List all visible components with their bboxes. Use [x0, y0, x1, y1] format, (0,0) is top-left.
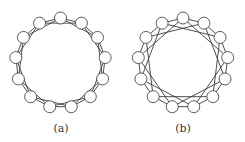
node-a-0 [55, 12, 67, 24]
caption-b: (b) [175, 122, 191, 135]
node-a-12 [34, 17, 46, 29]
node-a-10 [10, 52, 22, 64]
node-a-2 [92, 31, 104, 43]
node-b-8 [147, 91, 159, 103]
node-b-5 [207, 91, 219, 103]
node-b-9 [135, 73, 147, 85]
panel-a-graph [10, 12, 111, 113]
node-a-1 [75, 17, 87, 29]
node-b-11 [140, 31, 152, 43]
node-a-8 [25, 91, 37, 103]
node-a-11 [17, 31, 29, 43]
node-b-0 [177, 12, 189, 24]
node-a-9 [12, 73, 24, 85]
node-a-3 [99, 52, 111, 64]
node-b-7 [166, 101, 178, 113]
node-a-4 [97, 73, 109, 85]
panel-b-graph [132, 12, 233, 113]
node-a-7 [44, 101, 56, 113]
node-b-6 [188, 101, 200, 113]
caption-a: (a) [53, 122, 68, 135]
node-b-12 [156, 17, 168, 29]
figure: (a) (b) [0, 0, 245, 142]
node-a-6 [65, 101, 77, 113]
node-b-10 [132, 52, 144, 64]
node-b-3 [222, 52, 234, 64]
node-b-4 [219, 73, 231, 85]
node-b-2 [214, 31, 226, 43]
node-b-1 [198, 17, 210, 29]
node-a-5 [84, 91, 96, 103]
